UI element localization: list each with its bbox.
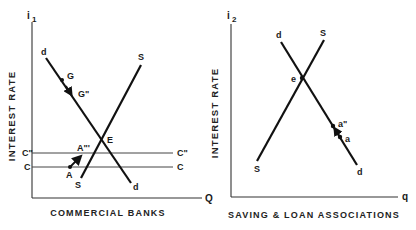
supply-label-top-right: S	[320, 28, 326, 38]
label-c-double-prime-left: C"	[22, 148, 33, 158]
y-axis-subscript-left: 1	[32, 15, 37, 24]
label-a: A	[66, 170, 73, 180]
point-a-double-prime	[331, 124, 335, 128]
supply-label-bottom-right: S	[254, 164, 260, 174]
label-g: G	[67, 71, 74, 81]
diagram-canvas: i 1 Q INTEREST RATE C" C" C C d d S S E …	[0, 0, 416, 230]
x-axis-label-right: q	[402, 191, 408, 202]
supply-label-bottom-left: S	[75, 180, 81, 190]
arrow-a-to-a3	[70, 157, 80, 167]
point-g	[60, 78, 64, 82]
panel-saving-loan: i 2 q INTEREST RATE d d S S e a" a SAVIN…	[209, 10, 408, 220]
equilibrium-label-right: e	[291, 74, 296, 84]
label-c-double-prime-right: C"	[177, 148, 188, 158]
panel-title-right: SAVING & LOAN ASSOCIATIONS	[228, 210, 400, 220]
label-a-lower: a	[345, 134, 351, 144]
x-axis-label-left: Q	[205, 193, 213, 204]
y-axis-title-left: INTEREST RATE	[6, 71, 17, 161]
label-g-double-prime: G"	[78, 89, 89, 99]
panel-title-left: COMMERCIAL BANKS	[50, 208, 166, 218]
supply-label-top-left: S	[138, 52, 144, 62]
demand-label-bottom-left: d	[133, 182, 139, 192]
demand-label-top-right: d	[276, 30, 282, 40]
demand-label-bottom-right: d	[357, 167, 363, 177]
label-c-right: C	[177, 162, 184, 172]
demand-label-top-left: d	[41, 47, 47, 57]
y-axis-title-right: INTEREST RATE	[209, 68, 220, 158]
y-axis-symbol-right: i	[227, 10, 230, 21]
panel-commercial-banks: i 1 Q INTEREST RATE C" C" C C d d S S E …	[6, 10, 213, 218]
label-a-double-prime: a"	[338, 119, 347, 129]
point-e	[300, 76, 304, 80]
y-axis-symbol-left: i	[27, 10, 30, 21]
label-a-triple-prime: A"'	[77, 143, 90, 153]
arrow-a-to-a2	[335, 129, 340, 137]
y-axis-subscript-right: 2	[232, 15, 237, 24]
label-c-left: C	[24, 162, 31, 172]
equilibrium-label-left: E	[107, 135, 113, 145]
demand-curve-right	[281, 42, 357, 165]
